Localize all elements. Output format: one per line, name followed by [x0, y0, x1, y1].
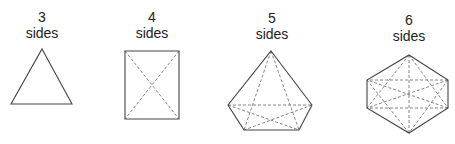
diagonal-line — [125, 51, 179, 119]
quadrilateral-shape — [125, 51, 179, 119]
triangle-shape — [11, 49, 72, 104]
diagonal-line — [125, 51, 179, 119]
diagonal-line — [228, 105, 299, 130]
diagonal-line — [367, 80, 409, 133]
quadrilateral-outline — [125, 51, 179, 119]
diagonal-line — [409, 55, 448, 108]
diagonal-line — [367, 55, 409, 108]
hexagon-shape — [367, 55, 448, 133]
diagonal-line — [244, 51, 271, 130]
triangle-outline — [11, 49, 72, 104]
diagonal-line — [271, 51, 299, 130]
pentagon-shape — [228, 51, 312, 130]
diagonal-line — [409, 80, 448, 133]
shapes-canvas — [0, 0, 455, 144]
pentagon-outline — [228, 51, 312, 130]
diagonal-line — [244, 105, 312, 130]
